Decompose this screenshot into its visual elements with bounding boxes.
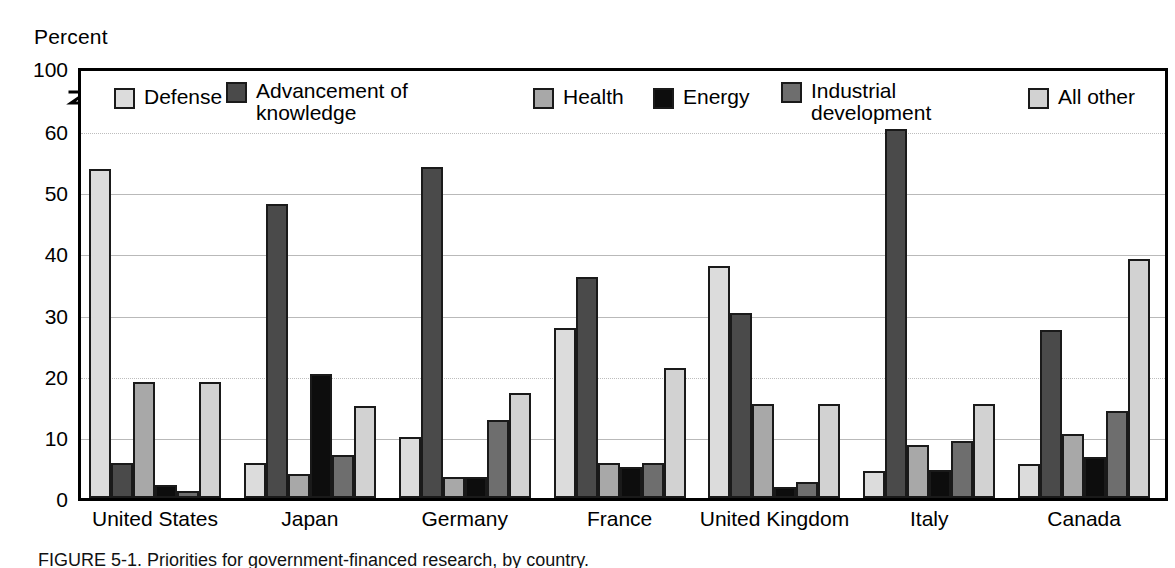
- bar-allother: [199, 382, 221, 498]
- bar-energy: [774, 487, 796, 498]
- bar-defense: [863, 471, 885, 498]
- legend-label-line1: Industrial: [811, 79, 896, 102]
- y-axis-tick-label: 30: [45, 306, 68, 327]
- plot-area: [78, 68, 1168, 501]
- legend-label-line2: knowledge: [256, 102, 408, 124]
- legend-label-line1: Defense: [144, 85, 222, 108]
- plot-inner: [81, 71, 1165, 498]
- y-axis-tick-label: 0: [56, 489, 68, 510]
- bar-defense: [399, 437, 421, 498]
- figure-caption: FIGURE 5-1. Priorities for government-fi…: [38, 549, 1168, 568]
- legend-label-line1: Energy: [683, 85, 750, 108]
- y-axis-tick-label: 20: [45, 367, 68, 388]
- bar-industrial: [1106, 411, 1128, 498]
- legend-label: Defense: [144, 86, 222, 108]
- bar-allother: [354, 406, 376, 498]
- chart-legend: DefenseAdvancement ofknowledgeHealthEner…: [78, 70, 1168, 132]
- bar-health: [598, 463, 620, 498]
- bar-allother: [664, 368, 686, 498]
- gridline-10: [81, 439, 1165, 440]
- bar-energy: [310, 374, 332, 498]
- bar-defense: [244, 463, 266, 498]
- bar-health: [133, 382, 155, 498]
- bar-energy: [155, 485, 177, 498]
- y-axis-unit-label: Percent: [34, 26, 108, 48]
- bar-industrial: [642, 463, 664, 498]
- bar-industrial: [951, 441, 973, 498]
- bar-allother: [509, 393, 531, 498]
- x-axis-category-label: Italy: [910, 508, 949, 530]
- bar-defense: [1018, 464, 1040, 498]
- legend-swatch-icon: [653, 88, 674, 109]
- bar-industrial: [177, 491, 199, 498]
- x-axis-category-label: France: [587, 508, 652, 530]
- chart-figure: Percent 1006050403020100 DefenseAdvancem…: [0, 0, 1175, 568]
- x-axis-category-label: United States: [92, 508, 218, 530]
- x-axis-category-label: United Kingdom: [700, 508, 849, 530]
- bar-health: [288, 474, 310, 498]
- bar-defense: [554, 328, 576, 498]
- legend-label: All other: [1058, 86, 1135, 108]
- bar-health: [907, 445, 929, 498]
- bar-energy: [929, 470, 951, 498]
- bar-health: [443, 477, 465, 498]
- legend-item-advancement[interactable]: Advancement ofknowledge: [226, 80, 408, 124]
- bar-health: [752, 404, 774, 498]
- legend-label: Advancement ofknowledge: [256, 80, 408, 124]
- bar-industrial: [796, 482, 818, 499]
- y-axis-tick-label: 50: [45, 183, 68, 204]
- bar-industrial: [487, 420, 509, 498]
- legend-label-line2: development: [811, 102, 931, 124]
- legend-label: Energy: [683, 86, 750, 108]
- x-axis-category-label: Canada: [1047, 508, 1121, 530]
- legend-swatch-icon: [114, 88, 135, 109]
- bar-energy: [465, 477, 487, 498]
- legend-label: Industrialdevelopment: [811, 80, 931, 124]
- y-axis-tick-label: 60: [45, 122, 68, 143]
- bar-industrial: [332, 455, 354, 498]
- legend-item-energy[interactable]: Energy: [653, 86, 750, 109]
- legend-label-line1: All other: [1058, 85, 1135, 108]
- bar-allother: [973, 404, 995, 498]
- y-axis-tick-label: 100: [33, 59, 68, 80]
- x-axis-category-label: Japan: [281, 508, 338, 530]
- bar-allother: [818, 404, 840, 498]
- legend-label-line1: Health: [563, 85, 624, 108]
- legend-swatch-icon: [781, 82, 802, 103]
- bar-energy: [1084, 457, 1106, 498]
- legend-label-line1: Advancement of: [256, 79, 408, 102]
- legend-swatch-icon: [533, 88, 554, 109]
- y-axis-tick-label: 40: [45, 244, 68, 265]
- bar-health: [1062, 434, 1084, 498]
- legend-item-allother[interactable]: All other: [1028, 86, 1135, 109]
- bar-advancement: [266, 204, 288, 498]
- bar-defense: [89, 169, 111, 498]
- y-axis-tick-label: 10: [45, 428, 68, 449]
- bar-allother: [1128, 259, 1150, 498]
- bar-advancement: [576, 277, 598, 498]
- bar-advancement: [421, 167, 443, 498]
- bar-advancement: [730, 313, 752, 498]
- gridline-60: [81, 133, 1165, 134]
- bar-advancement: [1040, 330, 1062, 498]
- bar-advancement: [111, 463, 133, 498]
- bar-defense: [708, 266, 730, 498]
- legend-item-industrial[interactable]: Industrialdevelopment: [781, 80, 931, 124]
- gridline-50: [81, 194, 1165, 195]
- x-axis-category-label: Germany: [422, 508, 508, 530]
- legend-item-defense[interactable]: Defense: [114, 86, 222, 109]
- legend-swatch-icon: [226, 82, 247, 103]
- bar-energy: [620, 467, 642, 498]
- gridline-20: [81, 378, 1165, 379]
- legend-label: Health: [563, 86, 624, 108]
- gridline-30: [81, 317, 1165, 318]
- legend-item-health[interactable]: Health: [533, 86, 624, 109]
- legend-swatch-icon: [1028, 88, 1049, 109]
- gridline-40: [81, 255, 1165, 256]
- bar-advancement: [885, 129, 907, 498]
